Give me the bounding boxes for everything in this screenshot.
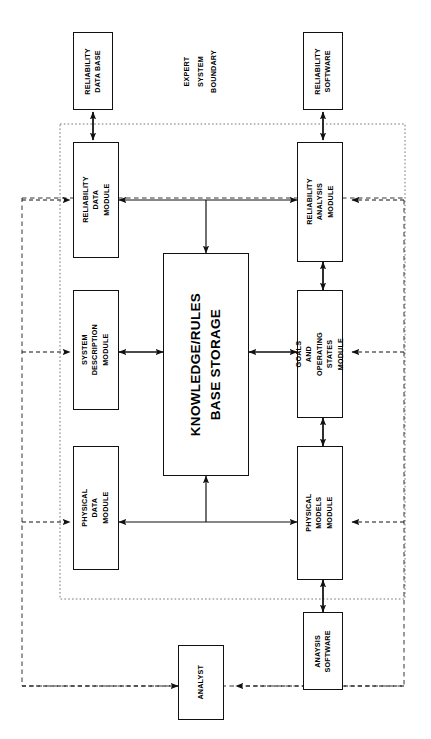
goals-and-operating-states-module-box[interactable]: GOALS AND OPERATING STATES MODULE [297, 290, 343, 418]
knowledge-rules-base-storage-box[interactable]: KNOWLEDGE/RULES BASE STORAGE [163, 253, 249, 476]
goals-and-operating-states-module-label: GOALS AND OPERATING STATES MODULE [294, 332, 346, 376]
physical-models-module-label: PHYSICAL MODELS MODULE [304, 491, 335, 535]
reliability-analysis-module-label: RELIABILITY ANALYSIS MODULE [304, 179, 335, 225]
reliability-data-module-label: RELIABILITY DATA MODULE [80, 177, 111, 223]
diagram-canvas: RELIABILITY DATA BASE EXPERT SYSTEM BOUN… [0, 0, 431, 739]
system-description-module-label: SYSTEM DESCRIPTION MODULE [80, 324, 111, 375]
expert-system-boundary-text: EXPERT SYSTEM BOUNDARY [179, 51, 220, 94]
anaysis-software-label: ANAYSIS SOFTWARE [313, 630, 334, 672]
analyst-label: ANALYST [196, 665, 206, 700]
knowledge-rules-base-storage-label: KNOWLEDGE/RULES BASE STORAGE [186, 293, 225, 436]
physical-models-module-box[interactable]: PHYSICAL MODELS MODULE [297, 446, 343, 580]
reliability-software-box[interactable]: RELIABILITY SOFTWARE [303, 32, 343, 110]
reliability-data-module-box[interactable]: RELIABILITY DATA MODULE [73, 142, 119, 258]
reliability-data-base-box[interactable]: RELIABILITY DATA BASE [73, 32, 113, 110]
expert-system-boundary-caption: EXPERT SYSTEM BOUNDARY [170, 32, 230, 112]
physical-data-module-box[interactable]: PHYSICAL DATA MODULE [73, 446, 119, 570]
analyst-box[interactable]: ANALYST [178, 645, 224, 720]
anaysis-software-box[interactable]: ANAYSIS SOFTWARE [303, 612, 343, 690]
physical-data-module-label: PHYSICAL DATA MODULE [80, 486, 111, 530]
system-description-module-box[interactable]: SYSTEM DESCRIPTION MODULE [73, 290, 119, 410]
reliability-data-base-label: RELIABILITY DATA BASE [83, 48, 104, 95]
reliability-software-label: RELIABILITY SOFTWARE [313, 48, 334, 95]
reliability-analysis-module-box[interactable]: RELIABILITY ANALYSIS MODULE [297, 142, 343, 262]
